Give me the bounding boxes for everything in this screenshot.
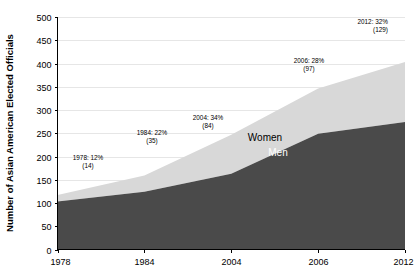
- annotation-label: 2012: 32%: [357, 18, 388, 25]
- y-tick-label: 150: [36, 176, 51, 186]
- annotation-count: (14): [82, 162, 93, 170]
- x-tick-label: 2006: [308, 257, 328, 267]
- annotation-label: 2006: 28%: [294, 57, 325, 64]
- x-tick-label: 2012: [393, 257, 413, 267]
- y-tick-label: 0: [46, 246, 51, 256]
- chart-svg: 050100150200250300350400450500 197819842…: [0, 0, 415, 275]
- y-tick-label: 100: [36, 199, 51, 209]
- y-tick-label: 500: [36, 13, 51, 23]
- y-tick-label: 450: [36, 36, 51, 46]
- series-label-women: Women: [248, 132, 282, 143]
- y-tick-label: 350: [36, 83, 51, 93]
- y-tick-label: 400: [36, 60, 51, 70]
- x-tick-label: 1978: [51, 257, 71, 267]
- x-tick-label: 1984: [134, 257, 154, 267]
- annotation-count: (97): [303, 65, 314, 73]
- y-tick-label: 300: [36, 106, 51, 116]
- annotation-label: 1984: 22%: [137, 129, 168, 136]
- annotation-count: (84): [202, 122, 213, 130]
- annotation-label: 2004: 34%: [193, 114, 224, 121]
- annotation-label: 1978: 12%: [73, 154, 104, 161]
- y-tick-label: 200: [36, 153, 51, 163]
- x-tick-label: 2004: [221, 257, 241, 267]
- y-axis-label: Number of Asian American Elected Officia…: [4, 34, 15, 232]
- series-label-men: Men: [268, 147, 287, 158]
- y-tick-label: 50: [41, 222, 51, 232]
- stacked-area-chart: 050100150200250300350400450500 197819842…: [0, 0, 415, 275]
- annotation-count: (129): [373, 26, 388, 34]
- annotation-count: (35): [146, 137, 157, 145]
- y-tick-label: 250: [36, 129, 51, 139]
